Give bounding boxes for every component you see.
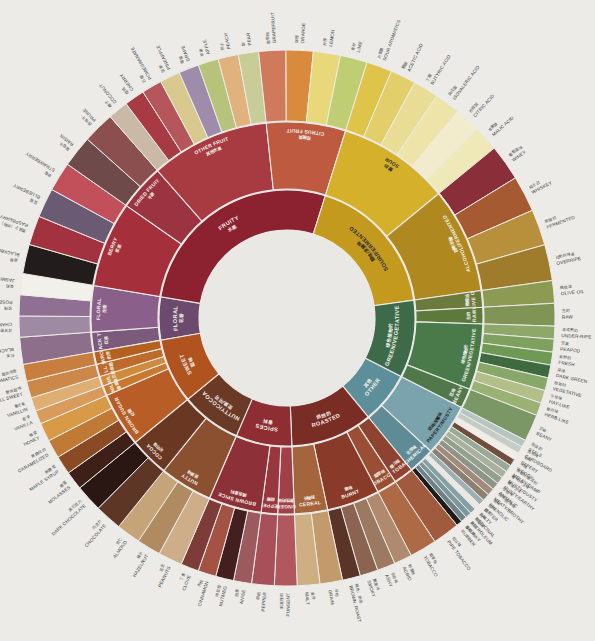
leaf-label-zh: 未成熟的 — [562, 327, 578, 333]
leaf-label-zh: 梨 — [241, 42, 247, 47]
leaf-label-zh: 柳橙 — [294, 35, 299, 43]
leaf-label-zh: 麦芽 — [310, 592, 316, 600]
leaf-label-en: ORANGE — [300, 23, 306, 44]
leaf-label-en: ROSE — [0, 299, 13, 305]
leaf-label-zh: 红茶 — [6, 353, 15, 359]
ring2-label-en: RAW — [471, 309, 477, 322]
leaf-label-zh: 茉莉 — [5, 283, 14, 289]
leaf-label-zh: 玫瑰 — [4, 306, 12, 311]
ring3-segment-pungent[interactable] — [274, 515, 297, 586]
leaf-label-zh: 生的 — [562, 308, 570, 313]
leaf-label-en: PUNGENT — [286, 593, 291, 617]
leaf-label-zh: 豆荚 — [561, 340, 569, 346]
flavor-wheel-canvas: 红茶BLACK TEA洋甘菊CHAMOMILE玫瑰ROSE茉莉JASMINE黑莓… — [0, 0, 595, 641]
leaf-label-zh: 葡萄柚 — [265, 31, 271, 43]
leaf-label-zh: 洋甘菊 — [0, 328, 12, 333]
coffee-flavor-wheel[interactable]: 红茶BLACK TEA洋甘菊CHAMOMILE玫瑰ROSE茉莉JASMINE黑莓… — [0, 0, 595, 641]
leaf-label-zh: 刺激性的 — [279, 593, 284, 609]
leaf-label-en: CHAMOMILE — [0, 322, 12, 328]
leaf-label-zh: 胡椒 — [255, 591, 261, 599]
leaf-label-en: RAW — [562, 314, 574, 319]
leaf-label-en: MALT — [304, 592, 310, 605]
wheel-hub — [199, 230, 375, 406]
ring3-segment-raw[interactable] — [484, 303, 555, 326]
